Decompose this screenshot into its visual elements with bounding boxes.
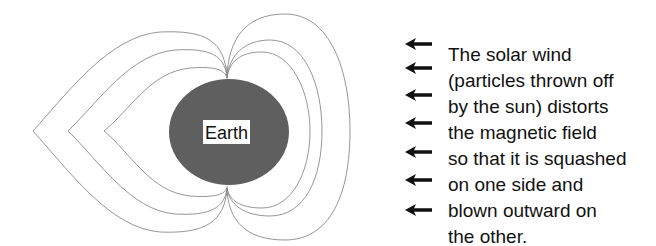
earth-label: Earth [205, 123, 248, 143]
left-arrow-icon [405, 174, 432, 186]
caption-line: by the sun) distorts [448, 94, 627, 120]
caption-line: blown outward on [448, 198, 627, 224]
solar-wind-arrows [405, 38, 432, 216]
left-arrow-icon [405, 89, 432, 101]
caption-line: the other. [448, 224, 627, 246]
left-arrow-icon [405, 117, 432, 129]
solar-wind-caption: The solar wind (particles thrown off by … [448, 42, 627, 246]
caption-line: The solar wind [448, 42, 627, 68]
left-arrow-icon [405, 146, 432, 158]
caption-line: (particles thrown off [448, 68, 627, 94]
left-arrow-icon [405, 204, 432, 216]
caption-line: the magnetic field [448, 120, 627, 146]
left-arrow-icon [405, 38, 432, 50]
caption-line: so that it is squashed [448, 146, 627, 172]
left-arrow-icon [405, 62, 432, 74]
caption-line: on one side and [448, 172, 627, 198]
